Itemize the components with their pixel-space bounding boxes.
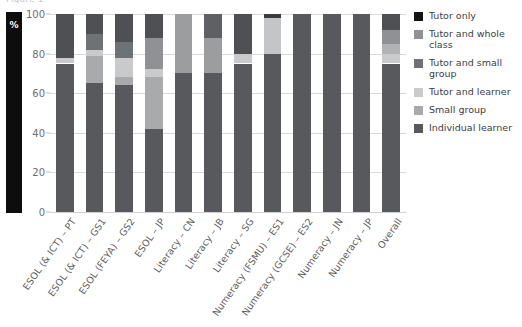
legend-color-swatch <box>414 124 423 133</box>
percent-axis-spine: % <box>6 12 22 213</box>
bar-segment[interactable] <box>56 64 74 213</box>
bar-slot[interactable] <box>115 14 133 212</box>
bar-segment[interactable] <box>115 77 133 85</box>
legend-item[interactable]: Individual learner <box>414 122 520 133</box>
bar-segment[interactable] <box>382 64 400 213</box>
bar-slot[interactable] <box>293 14 311 212</box>
bar-segment[interactable] <box>145 77 163 128</box>
stacked-bar[interactable] <box>56 14 74 212</box>
bar-segment[interactable] <box>382 30 400 44</box>
bar-slot[interactable] <box>56 14 74 212</box>
bar-segment[interactable] <box>234 54 252 64</box>
bar-slot[interactable] <box>86 14 104 212</box>
bar-segment[interactable] <box>204 73 222 212</box>
x-axis-label: ESOL (& ICT) – PT <box>20 216 78 292</box>
legend-item-label: Tutor and learner <box>429 86 511 97</box>
y-tick-label-0: 0 <box>39 207 45 218</box>
bar-slot[interactable] <box>264 14 282 212</box>
stacked-bar[interactable] <box>115 14 133 212</box>
bars-container <box>50 14 406 212</box>
bar-segment[interactable] <box>86 83 104 212</box>
legend-item[interactable]: Tutor and learner <box>414 86 520 97</box>
bar-segment[interactable] <box>175 73 193 212</box>
legend-item-label: Tutor and small group <box>429 57 502 79</box>
legend-item[interactable]: Tutor only <box>414 10 520 21</box>
stacked-bar[interactable] <box>353 14 371 212</box>
stacked-bar[interactable] <box>175 14 193 212</box>
bar-slot[interactable] <box>204 14 222 212</box>
legend-item-label: Small group <box>429 104 486 115</box>
plot-area: 020406080100 <box>50 14 406 212</box>
stacked-bar[interactable] <box>382 14 400 212</box>
stacked-bar[interactable] <box>86 14 104 212</box>
stacked-bar[interactable] <box>264 14 282 212</box>
stacked-bar[interactable] <box>204 14 222 212</box>
bar-segment[interactable] <box>382 44 400 54</box>
bar-slot[interactable] <box>234 14 252 212</box>
x-axis-label: Overall <box>375 216 404 251</box>
bar-slot[interactable] <box>175 14 193 212</box>
x-axis-label: ESOL (FEYA) – GS2 <box>76 216 137 296</box>
figure-caption-sliver: Figure 1 <box>6 0 44 3</box>
bar-slot[interactable] <box>353 14 371 212</box>
legend-item[interactable]: Tutor and whole class <box>414 28 520 50</box>
legend-item-label: Individual learner <box>429 122 512 133</box>
legend-item-label: Tutor only <box>429 10 476 21</box>
bar-segment[interactable] <box>115 85 133 212</box>
bar-segment[interactable] <box>382 14 400 30</box>
bar-segment[interactable] <box>56 14 74 58</box>
bar-segment[interactable] <box>382 54 400 64</box>
bar-segment[interactable] <box>264 54 282 212</box>
bar-segment[interactable] <box>115 42 133 58</box>
legend-item[interactable]: Small group <box>414 104 520 115</box>
bar-segment[interactable] <box>56 58 74 64</box>
bar-segment[interactable] <box>145 129 163 212</box>
stacked-bar[interactable] <box>234 14 252 212</box>
legend: Tutor onlyTutor and whole classTutor and… <box>414 10 520 140</box>
y-tick-label-40: 40 <box>32 127 45 138</box>
legend-color-swatch <box>414 30 423 39</box>
legend-color-swatch <box>414 88 423 97</box>
y-tick-label-20: 20 <box>32 167 45 178</box>
x-axis-labels: ESOL (& ICT) – PTESOL (& ICT) – GS1ESOL … <box>50 216 406 324</box>
bar-segment[interactable] <box>234 64 252 213</box>
stacked-bar-chart-figure: Figure 1 % 020406080100 ESOL (& ICT) – P… <box>0 0 522 327</box>
bar-segment[interactable] <box>323 14 341 212</box>
bar-segment[interactable] <box>145 69 163 77</box>
bar-segment[interactable] <box>145 14 163 38</box>
bar-segment[interactable] <box>86 14 104 34</box>
bar-segment[interactable] <box>264 14 282 18</box>
bar-segment[interactable] <box>264 18 282 54</box>
bar-segment[interactable] <box>204 14 222 38</box>
bar-segment[interactable] <box>86 50 104 56</box>
bar-segment[interactable] <box>86 34 104 50</box>
legend-item-label: Tutor and whole class <box>429 28 505 50</box>
bar-segment[interactable] <box>353 14 371 212</box>
bar-segment[interactable] <box>175 14 193 73</box>
legend-color-swatch <box>414 12 423 21</box>
bar-segment[interactable] <box>115 58 133 78</box>
y-tick-label-60: 60 <box>32 88 45 99</box>
stacked-bar[interactable] <box>323 14 341 212</box>
bar-segment[interactable] <box>145 38 163 70</box>
bar-slot[interactable] <box>145 14 163 212</box>
stacked-bar[interactable] <box>145 14 163 212</box>
y-axis-title: % <box>6 20 22 30</box>
bar-segment[interactable] <box>86 56 104 84</box>
gridline-0 <box>50 212 406 213</box>
legend-color-swatch <box>414 59 423 68</box>
bar-segment[interactable] <box>204 38 222 74</box>
y-tick-label-100: 100 <box>26 9 45 20</box>
legend-color-swatch <box>414 106 423 115</box>
legend-item[interactable]: Tutor and small group <box>414 57 520 79</box>
stacked-bar[interactable] <box>293 14 311 212</box>
bar-slot[interactable] <box>382 14 400 212</box>
bar-segment[interactable] <box>234 14 252 54</box>
y-tick-label-80: 80 <box>32 48 45 59</box>
bar-segment[interactable] <box>115 14 133 42</box>
bar-segment[interactable] <box>293 14 311 212</box>
bar-slot[interactable] <box>323 14 341 212</box>
